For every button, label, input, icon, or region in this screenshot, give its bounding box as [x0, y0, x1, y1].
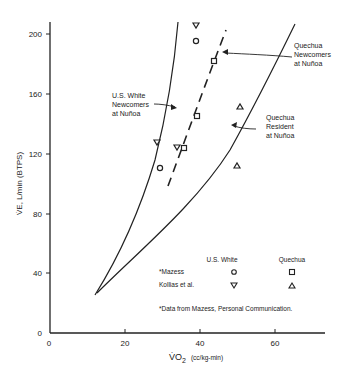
svg-text:at Nuñoa: at Nuñoa — [294, 60, 323, 67]
svg-text:Quechua: Quechua — [294, 42, 323, 50]
annotation-quechua-resident: Quechua Resident at Nuñoa — [231, 114, 295, 139]
y-tick-label: 120 — [29, 150, 43, 159]
point-quechua-kollias — [237, 104, 243, 109]
x-axis-label: V̇O2(cc/kg-min) — [169, 352, 223, 364]
y-tick-label: 160 — [29, 90, 43, 99]
x-ticks: 0 20 40 60 — [47, 329, 280, 348]
x-tick-label: 40 — [196, 339, 205, 348]
y-tick-label: 200 — [29, 30, 43, 39]
y-tick-label: 80 — [33, 210, 42, 219]
svg-text:*Mazess: *Mazess — [159, 268, 185, 275]
svg-text:*Data from Mazess, Personal Co: *Data from Mazess, Personal Communicatio… — [159, 305, 292, 312]
legend: U.S. White Quechua *Mazess Kollias et al… — [159, 256, 306, 312]
svg-text:Kollias et al.: Kollias et al. — [159, 281, 194, 288]
y-ticks: 0 40 80 120 160 200 — [29, 30, 50, 338]
point-quechua-mazess — [195, 114, 200, 119]
svg-text:U.S. White: U.S. White — [112, 92, 146, 99]
x-tick-label: 60 — [271, 339, 280, 348]
point-us-white-mazess — [157, 165, 162, 170]
x-tick-label: 0 — [47, 339, 52, 348]
y-axis-label: V̇E, L/min (BTPS) — [15, 152, 24, 215]
point-quechua-mazess — [182, 146, 187, 151]
y-tick-label: 40 — [33, 269, 42, 278]
svg-text:at Nuñoa: at Nuñoa — [266, 132, 295, 139]
point-quechua-mazess — [212, 59, 217, 64]
point-us-white-mazess — [193, 38, 198, 43]
point-us-white-kollias — [193, 23, 199, 28]
svg-text:at Nuñoa: at Nuñoa — [112, 110, 141, 117]
chart: 0 40 80 120 160 200 0 20 40 60 V̇E, L/mi… — [0, 0, 343, 379]
svg-text:U.S. White: U.S. White — [206, 256, 237, 263]
annotation-quechua-newcomers: Quechua Newcomers at Nuñoa — [222, 42, 331, 67]
point-quechua-kollias — [234, 163, 240, 168]
curve-quechua-resident — [97, 24, 295, 293]
curve-us-white-newcomers — [95, 22, 178, 295]
data-points — [154, 23, 243, 171]
y-tick-label: 0 — [38, 329, 43, 338]
svg-text:Resident: Resident — [266, 123, 294, 130]
svg-text:Newcomers: Newcomers — [294, 51, 331, 58]
svg-text:Quechua: Quechua — [279, 256, 306, 264]
x-tick-label: 20 — [121, 339, 130, 348]
svg-text:Quechua: Quechua — [266, 114, 295, 122]
point-us-white-kollias — [174, 145, 180, 150]
svg-text:Newcomers: Newcomers — [112, 101, 149, 108]
